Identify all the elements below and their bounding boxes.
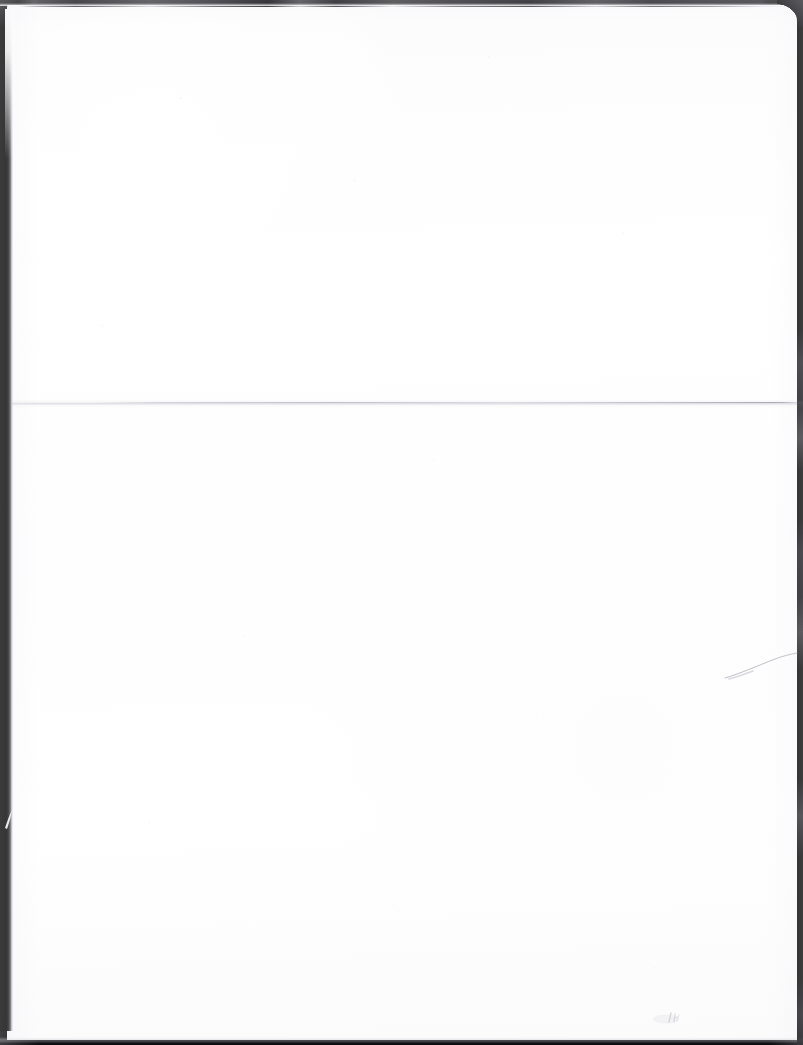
scanner-edge-shadow-top <box>0 0 803 7</box>
scanner-edge-shadow-left <box>0 9 13 1031</box>
scanner-edge-shadow-bottom <box>0 1037 803 1045</box>
scanned-page-frame <box>0 0 803 1045</box>
scanner-edge-shadow-right <box>797 0 803 1045</box>
paper-grain-texture <box>7 5 797 1040</box>
page-sheet <box>7 5 797 1040</box>
